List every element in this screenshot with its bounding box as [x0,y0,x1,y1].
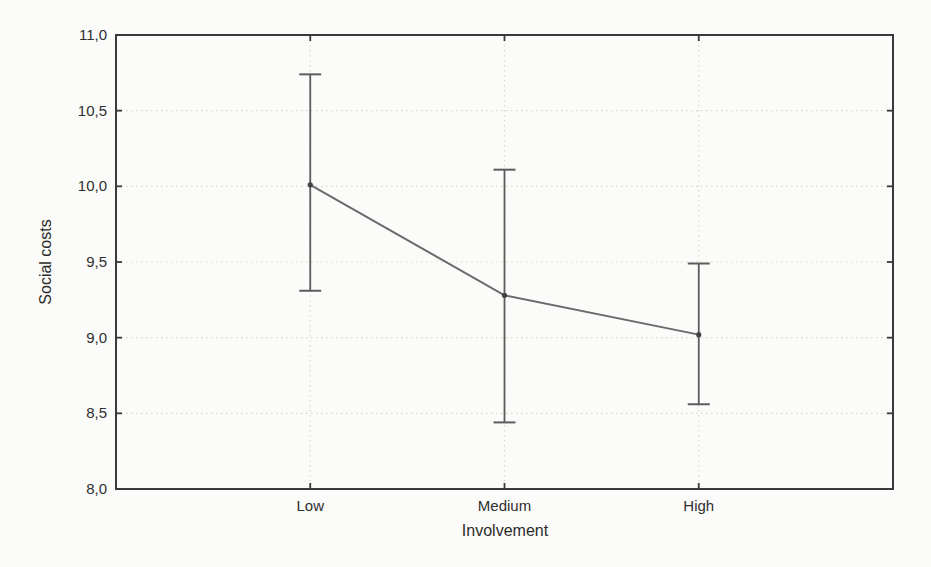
data-point-marker [502,293,507,298]
x-tick-label: Low [296,497,324,514]
y-tick-label: 9,5 [86,253,107,270]
y-tick-label: 10,5 [78,102,107,119]
data-point-marker [308,182,313,187]
y-tick-label: 8,5 [86,404,107,421]
y-tick-label: 10,0 [78,177,107,194]
figure: 8,08,59,09,510,010,511,0LowMediumHigh So… [0,0,931,567]
line-chart-canvas: 8,08,59,09,510,010,511,0LowMediumHigh [0,0,931,567]
x-tick-label: High [683,497,714,514]
x-tick-label: Medium [478,497,531,514]
y-tick-label: 8,0 [86,480,107,497]
y-tick-label: 11,0 [79,26,107,43]
x-axis-title: Involvement [462,522,548,540]
data-point-marker [696,332,701,337]
y-axis-title: Social costs [37,219,55,304]
y-tick-label: 9,0 [86,329,107,346]
